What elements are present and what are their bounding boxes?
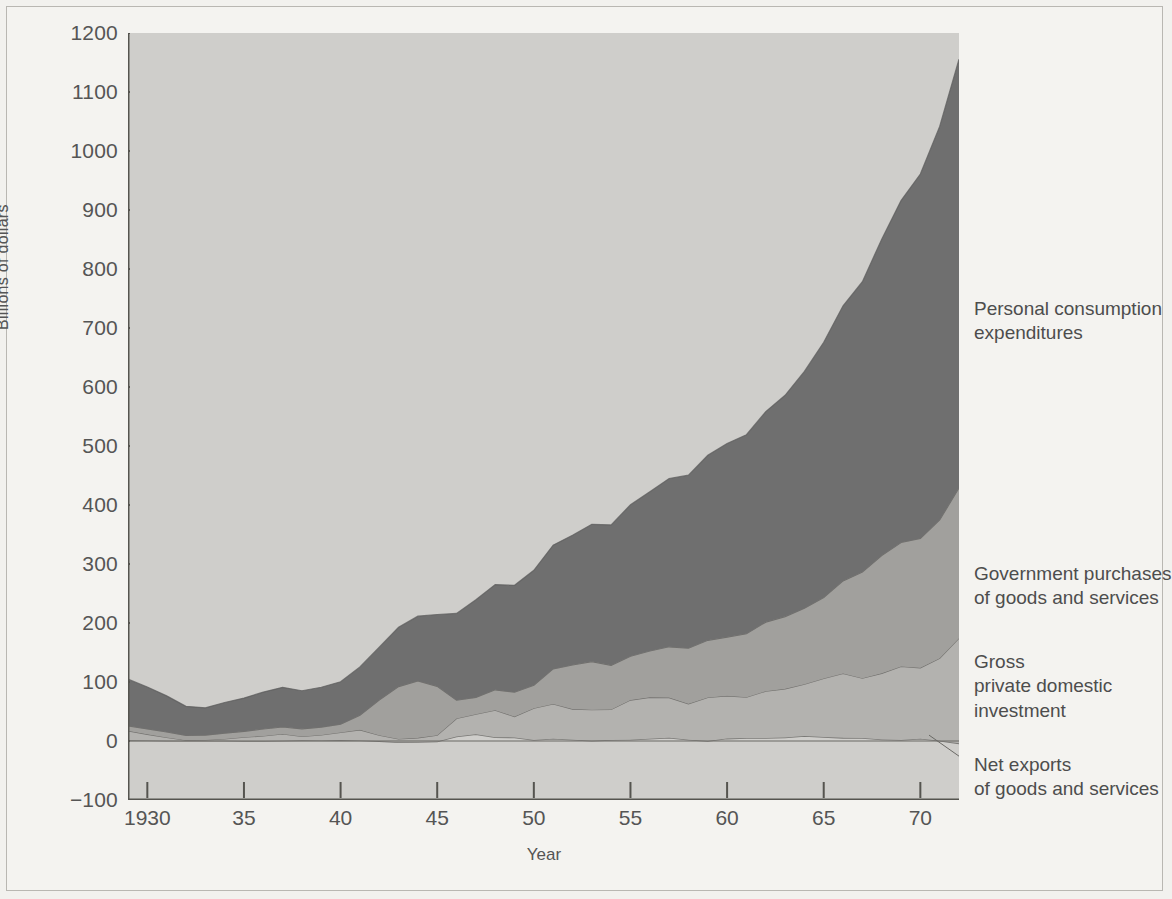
x-axis-title: Year [527,845,561,865]
series-label-gross-private-domestic-investment: Gross private domestic investment [974,650,1112,723]
series-label-personal-consumption: Personal consumption expenditures [974,297,1162,346]
x-tick-label: 55 [619,806,642,830]
x-tick-label: 60 [715,806,738,830]
stacked-area-chart [128,33,959,800]
y-tick-label: 0 [18,729,118,753]
series-label-line: expenditures [974,321,1162,345]
y-tick-label: 1000 [18,139,118,163]
x-tick-label: 65 [812,806,835,830]
y-tick-label: 800 [18,257,118,281]
y-tick-label: 600 [18,375,118,399]
x-tick-label: 1930 [124,806,171,830]
plot-area [128,33,959,800]
series-label-line: private domestic [974,674,1112,698]
y-tick-label: 500 [18,434,118,458]
y-tick-label: −100 [18,788,118,812]
y-tick-label: 1200 [18,21,118,45]
x-tick-label: 40 [329,806,352,830]
x-tick-label: 70 [909,806,932,830]
x-tick-label: 50 [522,806,545,830]
y-tick-label: 100 [18,670,118,694]
y-tick-label: 200 [18,611,118,635]
series-label-line: of goods and services [974,777,1159,801]
x-tick-label: 35 [232,806,255,830]
series-label-line: of goods and services [974,586,1172,610]
x-tick-label: 45 [426,806,449,830]
series-label-line: Net exports [974,753,1159,777]
series-label-line: investment [974,699,1112,723]
y-tick-label: 1100 [18,80,118,104]
y-tick-label: 400 [18,493,118,517]
series-label-line: Government purchases [974,562,1172,586]
series-label-government-purchases: Government purchases of goods and servic… [974,562,1172,611]
y-tick-label: 700 [18,316,118,340]
series-label-line: Personal consumption [974,297,1162,321]
y-axis-tick-labels: −100010020030040050060070080090010001100… [0,0,118,899]
series-label-line: Gross [974,650,1112,674]
y-tick-label: 300 [18,552,118,576]
series-label-net-exports: Net exports of goods and services [974,753,1159,802]
y-tick-label: 900 [18,198,118,222]
y-axis-title: Billions of dollars [0,70,12,330]
